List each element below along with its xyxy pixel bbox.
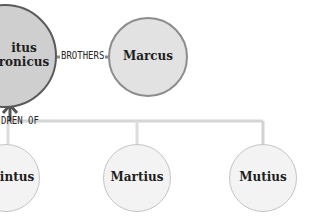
mutius-label: Mutius [239, 171, 287, 185]
node-mutius[interactable]: Mutius [229, 144, 297, 212]
edge-label-children-of: DREN OF [0, 115, 40, 127]
marcus-label: Marcus [123, 50, 173, 64]
edge-label-brothers: BROTHERS [60, 50, 105, 62]
martius-label: Martius [111, 171, 164, 185]
titus-label: itus ronicus [0, 42, 49, 70]
node-martius[interactable]: Martius [103, 144, 171, 212]
node-marcus[interactable]: Marcus [108, 17, 188, 97]
quintus-label: intus [0, 171, 34, 185]
